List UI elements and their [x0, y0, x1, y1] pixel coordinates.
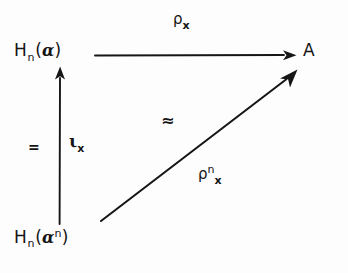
- rho-x-subscript: x: [183, 19, 190, 32]
- node-h-n-a-subscript: n: [27, 51, 35, 64]
- node-h-n-a-close-paren: ): [55, 40, 62, 60]
- arrow-label-approx-symbol: ≈: [161, 113, 174, 129]
- rho-n-x-subscript: x: [215, 174, 222, 187]
- node-h-n-an-subscript: n: [27, 237, 35, 250]
- node-a: A: [303, 42, 315, 59]
- iota-x-symbol: ι: [69, 131, 77, 151]
- node-h-n-a-ideal: ɑ: [42, 41, 55, 60]
- arrow-label-rho-x: ρx: [173, 12, 190, 31]
- diagonal-arrow: [101, 70, 298, 222]
- rho-n-x-superscript: n: [208, 163, 215, 176]
- rho-n-x-symbol: ρ: [198, 165, 208, 183]
- node-h-n-a: Hn(ɑ): [14, 42, 61, 63]
- node-h-n-an-close-paren: ): [62, 227, 69, 247]
- node-h-n-a-base: H: [14, 40, 27, 60]
- node-h-n-an-ideal: ɑ: [42, 228, 55, 247]
- node-h-n-an-superscript: n: [55, 227, 62, 240]
- arrow-label-equality-mark: =: [28, 140, 40, 154]
- node-h-n-a-open-paren: (: [35, 40, 42, 60]
- diagram-canvas: Hn(ɑ) Hn(ɑn) A ρx = ιx ≈ ρnx: [0, 0, 348, 273]
- node-h-n-an-open-paren: (: [35, 227, 42, 247]
- rho-x-symbol: ρ: [173, 10, 183, 28]
- node-h-n-an-base: H: [14, 227, 27, 247]
- node-h-n-a-power-n: Hn(ɑn): [14, 228, 69, 249]
- horizontal-arrow: [95, 50, 297, 60]
- arrow-label-iota-x: ιx: [69, 133, 84, 154]
- iota-x-subscript: x: [77, 142, 84, 155]
- vertical-arrow: [55, 67, 65, 225]
- arrow-label-rho-n-x: ρnx: [198, 164, 222, 186]
